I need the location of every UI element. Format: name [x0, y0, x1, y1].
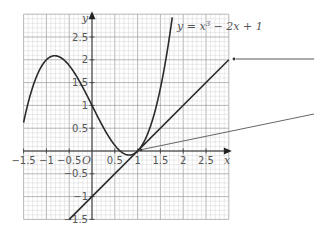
svg-text:0.5: 0.5: [72, 123, 88, 134]
svg-text:2.5: 2.5: [198, 155, 214, 166]
svg-text:−0.5: −0.5: [64, 168, 88, 179]
svg-text:−1: −1: [73, 191, 88, 202]
svg-text:1: 1: [82, 100, 88, 111]
axes: [24, 11, 232, 219]
svg-text:−0.5: −0.5: [57, 155, 81, 166]
svg-text:2: 2: [180, 155, 186, 166]
cubic-curve: [24, 17, 173, 155]
tangent-line: [69, 60, 229, 220]
svg-text:0.5: 0.5: [107, 155, 123, 166]
svg-text:2: 2: [82, 54, 88, 65]
svg-text:−1.5: −1.5: [64, 214, 88, 225]
svg-text:2.5: 2.5: [72, 32, 88, 43]
y-axis-label: y: [81, 12, 89, 25]
label-pointer-1: [233, 58, 314, 61]
x-axis-label: x: [224, 154, 231, 167]
origin-label: O: [82, 154, 91, 167]
svg-text:1: 1: [134, 155, 140, 166]
grid: [24, 14, 229, 219]
graph-figure: −1.5−1−0.50.511.522.52.521.510.5−0.5−1−1…: [0, 0, 314, 238]
svg-text:−1: −1: [39, 155, 54, 166]
curve-equation-label: y = x3 − 2x + 1: [176, 20, 263, 33]
svg-text:1.5: 1.5: [152, 155, 168, 166]
svg-text:−1.5: −1.5: [11, 155, 35, 166]
